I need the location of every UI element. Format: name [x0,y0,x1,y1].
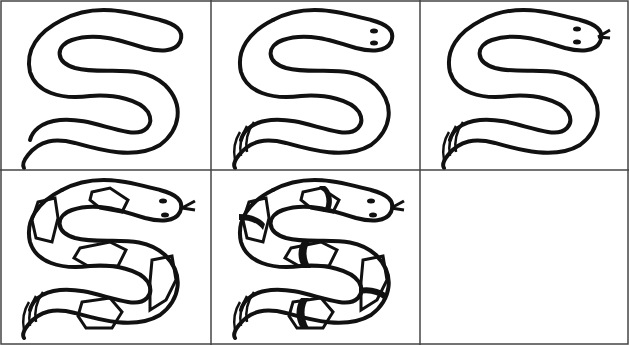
eye-icon [367,199,375,204]
step-5-cell [234,180,404,338]
eye-icon [370,41,378,46]
eye-icon [573,40,581,45]
eye-icon [573,27,581,32]
eye-icon [159,199,167,204]
hexagon-pattern [32,188,176,328]
eye-icon [369,213,377,218]
eye-icon [370,29,378,34]
step-4-cell [23,180,195,338]
step-1-cell [23,10,181,168]
tongue-icon [182,201,195,210]
step-grid [0,0,629,345]
drawing-canvas [0,0,629,345]
hexagon-pattern [243,188,387,328]
eye-icon [161,213,169,218]
step-2-cell [234,10,392,168]
step-3-cell [443,10,610,168]
